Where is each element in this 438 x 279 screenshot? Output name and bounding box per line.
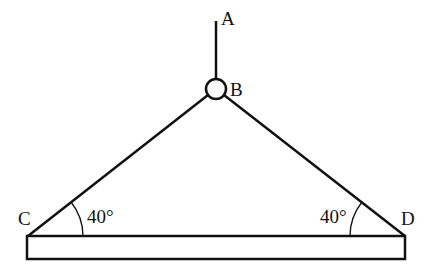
angle-label-left: 40° [87,206,114,227]
ring-b [206,79,226,99]
diagram-canvas: A B C D 40° 40° [0,0,438,279]
label-c: C [18,208,31,229]
label-d: D [401,208,415,229]
label-b: B [230,79,243,100]
beam [27,236,405,259]
cable-bc [28,95,208,236]
angle-arc-right [350,202,362,236]
angle-label-right: 40° [320,206,347,227]
angle-arc-left [71,202,83,236]
cable-bd [224,95,405,236]
label-a: A [221,8,235,29]
